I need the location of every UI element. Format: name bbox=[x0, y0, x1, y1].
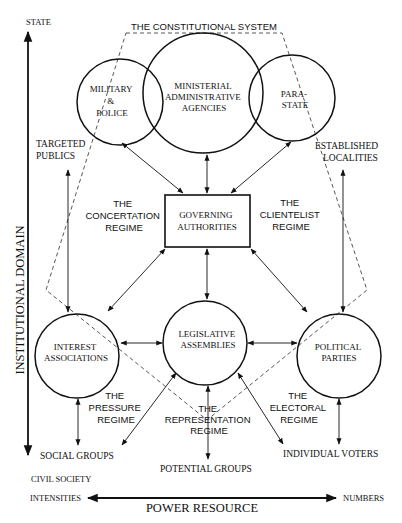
clientelist-regime-label: THE CLIENTELIST REGIME bbox=[260, 197, 323, 232]
arrow-governing-political bbox=[251, 249, 307, 312]
concertation-regime-label: THE CONCERTATION REGIME bbox=[85, 198, 162, 233]
military-police-node bbox=[77, 59, 163, 145]
arrow-governing-interest bbox=[108, 249, 165, 311]
institutional-domain-label: INSTITUTIONAL DOMAIN bbox=[13, 225, 27, 374]
targeted-publics-label: TARGETED PUBLICS bbox=[36, 139, 88, 161]
axis-right-numbers: NUMBERS bbox=[343, 493, 384, 503]
constitutional-system-diagram: THE CONSTITUTIONAL SYSTEM STATE CIVIL SO… bbox=[0, 0, 402, 523]
social-groups-label: SOCIAL GROUPS bbox=[40, 451, 114, 461]
electoral-regime-label: THE ELECTORAL REGIME bbox=[270, 390, 329, 425]
axis-bottom-civil-society: CIVIL SOCIETY bbox=[31, 474, 91, 484]
individual-voters-label: INDIVIDUAL VOTERS bbox=[283, 449, 378, 459]
arrow-military-governing bbox=[122, 143, 183, 193]
representation-regime-label: THE REPRESENTATION REGIME bbox=[165, 403, 253, 436]
axis-left-intensities: INTENSITIES bbox=[30, 493, 81, 503]
military-police-label: MILITARY & POLICE bbox=[90, 84, 135, 118]
constitutional-system-title: THE CONSTITUTIONAL SYSTEM bbox=[131, 21, 277, 32]
ministerial-agencies-label: MINISTERIAL ADMINISTRATIVE AGENCIES bbox=[165, 81, 243, 113]
governing-authorities-label: GOVERNING AUTHORITIES bbox=[177, 210, 237, 232]
established-localities-label: ESTABLISHED LOCALITIES bbox=[315, 141, 380, 163]
legislative-assemblies-label: LEGISLATIVE ASSEMBLIES bbox=[178, 329, 237, 350]
potential-groups-label: POTENTIAL GROUPS bbox=[160, 464, 252, 474]
parastate-label: PARA- STATE bbox=[281, 89, 309, 110]
power-resource-label: POWER RESOURCE bbox=[146, 501, 259, 515]
axis-top-state: STATE bbox=[26, 17, 51, 27]
arrow-parastate-governing bbox=[231, 142, 291, 193]
governing-authorities-node bbox=[165, 195, 250, 247]
pressure-regime-label: THE PRESSURE REGIME bbox=[89, 390, 144, 425]
interest-associations-label: INTEREST ASSOCIATIONS bbox=[44, 342, 108, 363]
political-parties-label: POLITICAL PARTIES bbox=[315, 342, 363, 363]
